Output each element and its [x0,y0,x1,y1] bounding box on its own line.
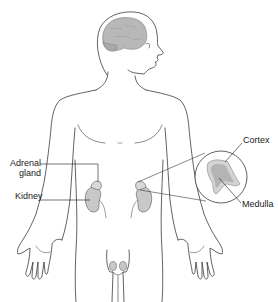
brain [103,18,147,52]
left-hand [17,238,62,279]
right-hand [178,238,223,279]
right-testis [120,262,127,271]
label-adrenal-line1: Adrenal [10,158,41,168]
label-medulla: Medulla [242,199,274,209]
torso-right-side [161,160,163,302]
neck-right [135,76,146,90]
left-kidney [85,187,106,218]
label-adrenal-line2: gland [19,168,41,178]
label-kidney: Kidney [15,191,43,201]
neck-left [96,72,108,90]
right-inner-arm [165,128,178,240]
label-adrenal-gland: Adrenal gland [4,158,41,178]
left-inner-arm [62,128,75,240]
label-cortex: Cortex [243,135,270,145]
body-diagram [0,0,278,302]
torso-left-side [75,160,77,302]
left-testis [110,262,117,271]
adrenal-leader-line [40,164,98,182]
groin [107,250,113,302]
